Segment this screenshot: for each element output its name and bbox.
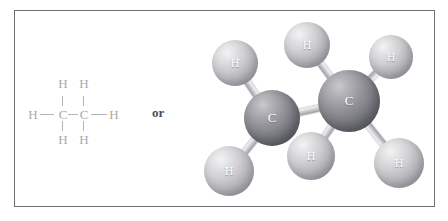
bond-h-left-terminal xyxy=(40,114,54,115)
atom-h-bottom-left: H xyxy=(56,133,70,146)
structural-formula: H H H C C H H H xyxy=(26,74,136,152)
bond-vertical-top-left xyxy=(62,96,63,106)
atom-h-right-end: H xyxy=(107,108,121,121)
atom-h-bottom-right: H xyxy=(77,133,91,146)
bond-vertical-top-right xyxy=(83,96,84,106)
bond-vertical-bottom-left xyxy=(62,121,63,131)
bond-h-right-terminal xyxy=(91,114,107,115)
atom-h-left-end: H xyxy=(26,108,40,121)
figure-root: H H H C C H H H or HHHCCHHH xyxy=(0,0,448,221)
atom-h-top-left: H xyxy=(56,77,70,90)
atom-h-top-right: H xyxy=(77,77,91,90)
atom-c-right: C xyxy=(77,108,91,121)
bond-vertical-bottom-right xyxy=(83,121,84,131)
atom-c-left: C xyxy=(56,108,70,121)
or-connector-label: or xyxy=(152,105,164,121)
